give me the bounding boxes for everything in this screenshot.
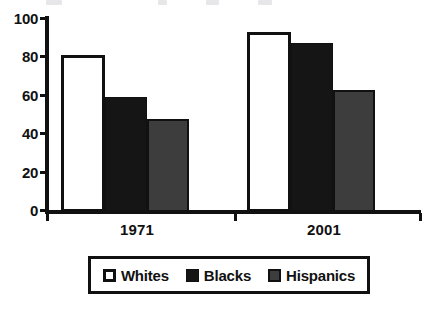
- bar-2001-whites: [247, 32, 291, 212]
- bar-1971-whites: [61, 55, 105, 212]
- clipped-text-remnant: [206, 0, 219, 5]
- legend-label-blacks: Blacks: [204, 268, 251, 283]
- legend-item-blacks: Blacks: [186, 268, 251, 283]
- y-axis-tick-label: 40: [0, 126, 38, 141]
- black-square-swatch-icon: [186, 269, 199, 282]
- y-axis-tick-label: 0: [0, 203, 38, 218]
- bar-2001-blacks: [291, 43, 333, 212]
- x-axis-tick: [234, 213, 237, 221]
- legend-label-hispanics: Hispanics: [286, 268, 355, 283]
- bar-1971-blacks: [105, 97, 147, 212]
- bar-2001-hispanics: [333, 90, 375, 212]
- clipped-text-remnant: [258, 0, 272, 5]
- bar-chart-figure: 100 80 60 40 20 0 1971 2001 Whites Black…: [0, 0, 439, 314]
- y-axis-tick-label: 100: [0, 11, 38, 26]
- bar-1971-hispanics: [147, 119, 189, 212]
- legend: Whites Blacks Hispanics: [88, 256, 370, 294]
- plot-area: [48, 18, 420, 212]
- clipped-text-remnant: [158, 0, 167, 5]
- legend-label-whites: Whites: [121, 268, 169, 283]
- gray-square-swatch-icon: [268, 269, 281, 282]
- y-axis-tick-label: 80: [0, 49, 38, 64]
- legend-item-whites: Whites: [103, 268, 169, 283]
- y-axis-tick-label: 60: [0, 88, 38, 103]
- x-axis-tick: [46, 213, 49, 221]
- y-axis-tick-label: 20: [0, 165, 38, 180]
- white-square-swatch-icon: [103, 269, 116, 282]
- x-axis-category-label-2001: 2001: [284, 222, 364, 237]
- x-axis-line: [45, 210, 421, 214]
- legend-item-hispanics: Hispanics: [268, 268, 355, 283]
- x-axis-tick: [419, 213, 422, 221]
- x-axis-category-label-1971: 1971: [97, 222, 177, 237]
- clipped-text-remnant: [46, 0, 62, 5]
